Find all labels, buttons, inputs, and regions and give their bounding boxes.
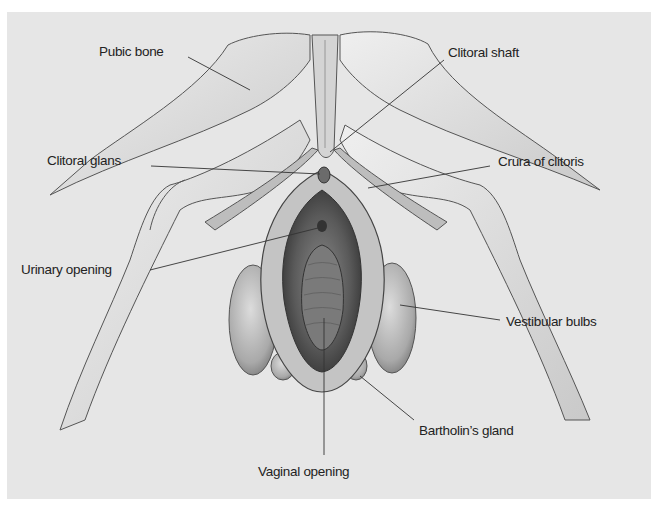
label-clitoral-glans: Clitoral glans — [47, 154, 121, 168]
label-pubic-bone: Pubic bone — [99, 45, 164, 59]
vaginal-opening-shape — [302, 245, 344, 350]
clitoral-glans-shape — [318, 167, 330, 183]
label-clitoral-shaft: Clitoral shaft — [448, 46, 519, 60]
label-vaginal-opening: Vaginal opening — [258, 465, 349, 479]
label-vestibular-bulbs: Vestibular bulbs — [506, 315, 597, 329]
leader-bartholins — [360, 376, 414, 420]
clitoral-shaft-shape — [312, 35, 338, 158]
anatomy-illustration — [0, 0, 658, 507]
label-bartholins-gland: Bartholin’s gland — [419, 424, 513, 438]
label-crura-of-clitoris: Crura of clitoris — [498, 155, 584, 169]
label-urinary-opening: Urinary opening — [21, 263, 112, 277]
anatomy-figure: Pubic bone Clitoral glans Urinary openin… — [0, 0, 658, 507]
urinary-opening-shape — [317, 220, 327, 232]
